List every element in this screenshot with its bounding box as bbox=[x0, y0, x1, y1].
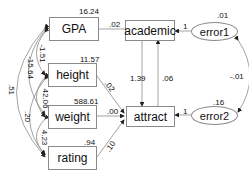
node-academic: academic bbox=[125, 20, 175, 41]
cov-gpa-rating-label: .51 bbox=[7, 84, 16, 95]
node-error1-label: error1 bbox=[200, 26, 229, 38]
node-gpa: GPA bbox=[49, 17, 99, 41]
path-academic-attract-label: 1.39 bbox=[130, 74, 146, 83]
node-academic-label: academic bbox=[124, 24, 175, 38]
cov-gpa-weight-label: -15.64 bbox=[26, 56, 35, 79]
node-height-label: height bbox=[56, 68, 89, 82]
node-attract: attract bbox=[126, 106, 175, 127]
node-error2: error2 bbox=[191, 106, 238, 125]
cov-height-weight-label: 42.06 bbox=[41, 88, 50, 108]
cov-error1-error2-label: -.01 bbox=[230, 72, 244, 81]
path-gpa-academic-label: .02 bbox=[109, 20, 120, 29]
node-attract-label: attract bbox=[134, 110, 167, 124]
node-height: height bbox=[48, 63, 97, 87]
height-variance: 11.57 bbox=[80, 55, 99, 64]
weight-variance: 588.61 bbox=[74, 97, 98, 106]
node-weight: weight bbox=[48, 105, 97, 129]
cov-gpa-height-label: -1.51 bbox=[38, 44, 47, 62]
error1-variance: .01 bbox=[217, 11, 228, 20]
path-weight-attract-label: .00 bbox=[107, 107, 118, 116]
error2-path-label: 1 bbox=[183, 107, 187, 116]
path-attract-academic-label: .06 bbox=[162, 74, 173, 83]
node-error2-label: error2 bbox=[200, 110, 229, 122]
cov-weight-rating-label: 4.23 bbox=[40, 130, 49, 146]
node-weight-label: weight bbox=[55, 110, 90, 124]
rating-variance: .94 bbox=[84, 138, 95, 147]
node-error1: error1 bbox=[191, 22, 238, 41]
gpa-variance: 16.24 bbox=[79, 7, 99, 16]
node-rating-label: rating bbox=[57, 151, 87, 165]
error2-variance: .16 bbox=[213, 98, 224, 107]
error1-path-label: 1 bbox=[183, 22, 187, 31]
node-gpa-label: GPA bbox=[62, 22, 86, 36]
cov-height-rating-label: .20 bbox=[23, 111, 32, 122]
node-rating: rating bbox=[48, 146, 97, 170]
